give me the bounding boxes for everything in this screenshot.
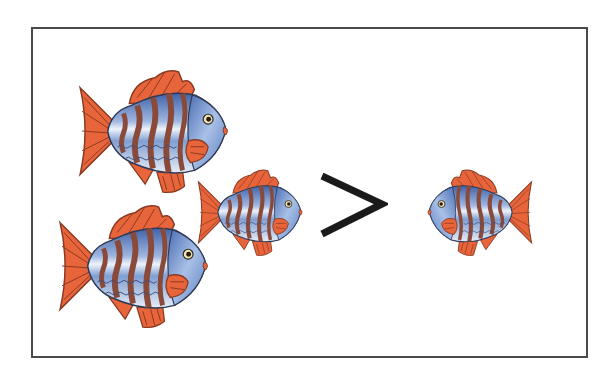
fish-icon [418, 168, 544, 258]
greater-than-symbol [318, 172, 388, 238]
fish-icon [186, 168, 312, 258]
